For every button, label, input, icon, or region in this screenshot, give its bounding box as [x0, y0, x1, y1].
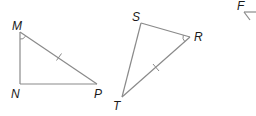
side-sr [141, 23, 190, 37]
geometry-diagram: M N P S R T F [0, 0, 256, 116]
angle-arc-m [20, 36, 26, 39]
label-r: R [194, 30, 203, 44]
triangle-f-partial: F [237, 0, 256, 20]
triangle-srt: S R T [113, 10, 203, 113]
angle-arc-r [183, 35, 185, 42]
label-f: F [237, 0, 245, 13]
side-st [122, 23, 141, 97]
label-s: S [132, 10, 140, 24]
label-m: M [12, 19, 22, 33]
label-n: N [11, 87, 20, 101]
side-f-partial-2 [244, 12, 250, 20]
label-t: T [113, 99, 122, 113]
label-p: P [94, 87, 102, 101]
triangle-mnp: M N P [11, 19, 102, 101]
